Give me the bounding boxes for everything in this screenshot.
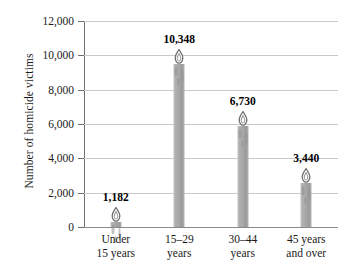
gridline — [84, 227, 338, 228]
candle-body — [174, 64, 185, 227]
x-axis-category-label: 45 yearsand over — [269, 232, 343, 260]
wax-drip — [178, 78, 180, 85]
wax-drip — [305, 197, 307, 204]
candle-flame-icon — [301, 168, 312, 183]
candle-bar[interactable]: 6,730 — [213, 21, 273, 227]
bar-value-label: 1,182 — [103, 191, 129, 203]
wax-drip — [238, 129, 241, 138]
candle-bar[interactable]: 10,348 — [149, 21, 209, 227]
y-axis-tick — [78, 227, 84, 228]
wax-drip — [309, 189, 311, 201]
candle-body — [110, 222, 121, 227]
y-axis-tick-label: 10,000 — [4, 49, 74, 61]
wax-drip — [241, 140, 243, 147]
y-axis-tick-label: 6,000 — [4, 118, 74, 130]
y-axis-tick-label: 4,000 — [4, 152, 74, 164]
candle-flame-icon — [237, 111, 248, 126]
y-axis-tick-label: 2,000 — [4, 187, 74, 199]
candle-body — [301, 183, 312, 227]
bar-value-label: 10,348 — [163, 33, 195, 45]
candle-body — [237, 126, 248, 227]
category-label-line: and over — [269, 246, 343, 260]
candle-flame-icon — [110, 207, 121, 222]
wax-drip — [302, 186, 305, 195]
y-axis-tick-label: 8,000 — [4, 84, 74, 96]
category-label-line: 45 years — [269, 232, 343, 246]
homicide-victims-bar-chart: Number of homicide victims 02,0004,0006,… — [0, 0, 350, 280]
candle-flame-icon — [174, 49, 185, 64]
y-axis-tick-label: 12,000 — [4, 15, 74, 27]
plot-area: 1,18210,3486,7303,440 — [84, 21, 338, 227]
wax-drip — [175, 67, 178, 76]
candle-bar[interactable]: 3,440 — [276, 21, 336, 227]
y-axis-tick-label: 0 — [4, 221, 74, 233]
wax-drip — [182, 70, 184, 82]
candle-bar[interactable]: 1,182 — [86, 21, 146, 227]
bar-value-label: 3,440 — [293, 152, 319, 164]
wax-drip — [245, 132, 247, 144]
bar-value-label: 6,730 — [230, 95, 256, 107]
